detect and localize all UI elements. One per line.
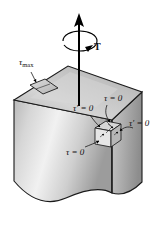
torque-label-text: T <box>94 41 101 52</box>
label-torque-T: T <box>94 42 101 52</box>
tau-max-leader <box>31 72 36 82</box>
label-tau-prime-zero-right: τ′ = 0 <box>129 119 149 128</box>
tau-zero-top-text: τ = 0 <box>104 93 122 103</box>
tau-prime-zero-right-text: τ′ = 0 <box>129 118 149 128</box>
tau-max-subscript: max <box>22 61 33 68</box>
torsion-figure: τmax T τ = 0 τ′ = 0 τ′ = 0 τ = 0 <box>0 0 156 250</box>
tau-zero-bottom-text: τ = 0 <box>66 147 84 157</box>
label-tau-max: τmax <box>19 58 33 68</box>
tau-prime-zero-left-text: τ′ = 0 <box>73 103 93 113</box>
label-tau-zero-top: τ = 0 <box>104 94 122 103</box>
label-tau-zero-bottom: τ = 0 <box>66 148 84 157</box>
label-tau-prime-zero-left: τ′ = 0 <box>73 104 93 113</box>
stress-cube-front <box>95 128 111 147</box>
